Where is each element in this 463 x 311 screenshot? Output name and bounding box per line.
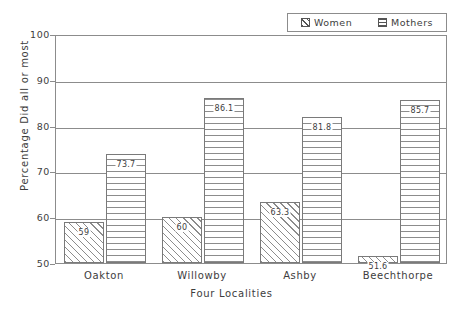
bar-ashby-mothers: 81.8: [302, 117, 342, 263]
legend-item-women: Women: [301, 17, 352, 28]
bar-chart: Percentage Did all or most 1009080706050…: [0, 0, 463, 311]
bar-beechthorpe-mothers: 85.7: [400, 100, 440, 264]
bar-willowby-women: 60: [162, 217, 202, 263]
legend-label-mothers: Mothers: [391, 17, 433, 28]
horizontal-hatch-swatch-icon: [378, 18, 387, 27]
bar-ashby-women: 63.3: [260, 202, 300, 263]
bar-value-label: 73.7: [115, 160, 136, 169]
y-axis-tick-label: 70: [0, 166, 50, 177]
x-axis-title: Four Localities: [0, 288, 463, 299]
plot-area: 5973.76086.163.381.851.685.7: [55, 35, 447, 264]
bar-value-label: 86.1: [213, 104, 234, 113]
y-axis-tick-label: 100: [0, 29, 50, 40]
legend-item-mothers: Mothers: [378, 17, 433, 28]
chart-legend: Women Mothers: [287, 13, 447, 32]
bar-value-label: 59: [78, 228, 91, 237]
y-axis-tick-label: 80: [0, 121, 50, 132]
legend-label-women: Women: [314, 17, 352, 28]
bar-willowby-mothers: 86.1: [204, 98, 244, 263]
gridline: [56, 128, 446, 129]
y-axis-tick-label: 90: [0, 75, 50, 86]
y-axis-tick-mark: [50, 264, 55, 265]
bar-beechthorpe-women: 51.6: [358, 256, 398, 263]
bar-value-label: 63.3: [269, 208, 290, 217]
bar-value-label: 85.7: [409, 106, 430, 115]
gridline: [56, 82, 446, 83]
bar-value-label: 60: [176, 223, 189, 232]
bar-oakton-mothers: 73.7: [106, 154, 146, 263]
y-axis-tick-label: 50: [0, 258, 50, 269]
bar-value-label: 81.8: [311, 123, 332, 132]
x-axis-tick-label-beechthorpe: Beechthorpe: [348, 270, 448, 281]
x-axis-tick-label-oakton: Oakton: [54, 270, 154, 281]
y-axis-tick-label: 60: [0, 212, 50, 223]
bar-oakton-women: 59: [64, 222, 104, 263]
x-axis-tick-label-ashby: Ashby: [250, 270, 350, 281]
diagonal-hatch-swatch-icon: [301, 18, 310, 27]
x-axis-tick-label-willowby: Willowby: [152, 270, 252, 281]
